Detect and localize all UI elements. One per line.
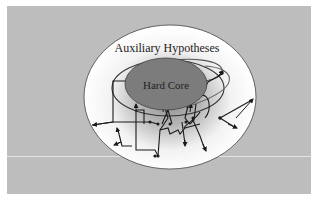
hard-core-label: Hard Core — [143, 79, 189, 91]
auxiliary-hypotheses-label: Auxiliary Hypotheses — [115, 41, 220, 55]
lakatos-diagram: Auxiliary Hypotheses — [0, 0, 317, 200]
